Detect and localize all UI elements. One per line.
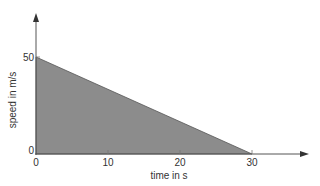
area-under-curve <box>36 57 252 154</box>
x-tick-label-20: 20 <box>174 157 186 168</box>
x-tick-label-30: 30 <box>246 157 258 168</box>
speed-time-chart: 0 10 20 30 0 50 time in s speed in m/s <box>0 0 320 186</box>
x-axis-label: time in s <box>150 170 187 181</box>
y-tick-label-50: 50 <box>23 52 35 63</box>
x-tick-label-0: 0 <box>33 157 39 168</box>
y-axis-label: speed in m/s <box>7 72 18 129</box>
x-axis-arrow-icon <box>300 151 309 157</box>
y-axis-arrow-icon <box>33 13 39 22</box>
x-tick-label-10: 10 <box>102 157 114 168</box>
y-tick-label-0: 0 <box>28 145 34 156</box>
